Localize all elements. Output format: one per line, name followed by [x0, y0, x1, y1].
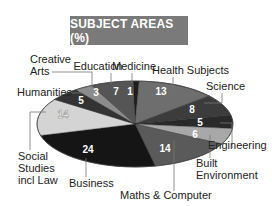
label-science: Science — [206, 80, 245, 92]
value-education: 7 — [113, 86, 119, 97]
label-education: Education — [74, 60, 123, 72]
label-social-3: incl Law — [18, 174, 58, 186]
label-social-1: Social — [18, 150, 48, 162]
value-creative: 3 — [93, 87, 99, 98]
label-built-1: Built — [196, 157, 217, 169]
label-engineering: Engineering — [208, 139, 267, 151]
value-built: 6 — [192, 129, 198, 140]
label-built-2: Environment — [196, 169, 258, 181]
label-humanities: Humanities — [17, 86, 73, 98]
label-creative-1: Creative — [30, 53, 71, 65]
label-creative-2: Arts — [30, 65, 50, 77]
label-maths: Maths & Computer — [120, 189, 212, 201]
value-business: 24 — [82, 144, 94, 155]
value-engineering: 5 — [197, 117, 203, 128]
label-business: Business — [69, 177, 114, 189]
label-social-2: Studies — [18, 162, 55, 174]
value-social: 14 — [57, 109, 69, 120]
value-medicine: 1 — [127, 86, 133, 97]
value-maths: 14 — [159, 143, 171, 154]
value-science: 8 — [189, 104, 195, 115]
value-health: 13 — [155, 86, 167, 97]
pie-chart: 1 13 8 5 6 14 24 14 5 3 7 Medicine Educa… — [0, 0, 272, 206]
value-humanities: 5 — [78, 95, 84, 106]
label-health: Health Subjects — [152, 64, 230, 76]
